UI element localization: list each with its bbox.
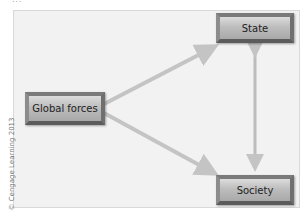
node-society-label: Society <box>237 185 274 196</box>
node-state-label: State <box>242 23 268 34</box>
node-global-forces-label: Global forces <box>32 103 97 114</box>
copyright-credit: © Cengage Learning 2013 <box>8 114 16 214</box>
node-society: Society <box>216 175 294 205</box>
arrow-global-to-state <box>104 48 212 104</box>
node-state: State <box>216 13 294 43</box>
node-global-forces: Global forces <box>25 92 105 125</box>
arrow-global-to-society <box>104 113 212 172</box>
